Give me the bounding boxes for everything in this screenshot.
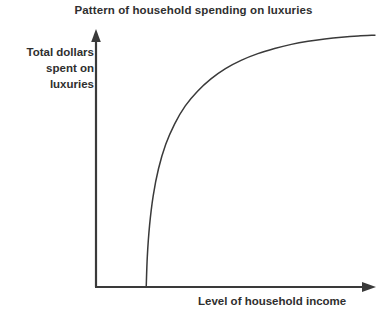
chart-figure: Pattern of household spending on luxurie…: [0, 0, 387, 321]
x-axis-label: Level of household income: [198, 295, 378, 307]
y-axis-arrowhead-icon: [91, 29, 101, 42]
luxury-spending-curve: [146, 35, 375, 287]
x-axis-arrowhead-icon: [362, 282, 376, 292]
plot-area: [0, 0, 387, 321]
